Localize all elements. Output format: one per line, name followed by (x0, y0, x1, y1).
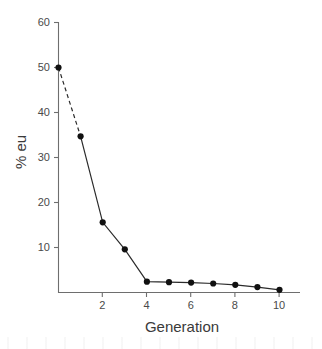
chart-canvas: 60 50 40 30 20 10 2 4 6 8 10 Generation … (0, 0, 322, 349)
x-tick-label-4: 4 (143, 299, 149, 311)
data-point-gen-3 (122, 246, 128, 252)
x-tick-label-10: 10 (273, 299, 285, 311)
y-tick-label-30: 30 (38, 151, 50, 163)
y-tick-label-60: 60 (38, 16, 50, 28)
x-axis-title: Generation (145, 318, 219, 335)
x-tick-label-6: 6 (188, 299, 194, 311)
y-tick-label-20: 20 (38, 196, 50, 208)
data-point-gen-0 (55, 64, 61, 70)
data-point-gen-1 (78, 133, 84, 139)
x-tick-label-8: 8 (232, 299, 238, 311)
data-point-gen-7 (210, 280, 216, 286)
chart-background (0, 0, 322, 349)
y-tick-label-40: 40 (38, 106, 50, 118)
y-tick-label-50: 50 (38, 61, 50, 73)
data-point-gen-10 (276, 287, 282, 293)
scan-artifact-strip (0, 337, 322, 349)
line-chart-figure: 60 50 40 30 20 10 2 4 6 8 10 Generation … (0, 0, 322, 349)
data-point-gen-5 (166, 279, 172, 285)
x-tick-label-2: 2 (99, 299, 105, 311)
y-axis-title: % eu (12, 135, 29, 169)
data-point-gen-4 (144, 279, 150, 285)
data-point-gen-2 (100, 219, 106, 225)
y-tick-label-10: 10 (38, 241, 50, 253)
data-point-gen-9 (254, 284, 260, 290)
data-point-gen-8 (232, 282, 238, 288)
data-point-gen-6 (188, 280, 194, 286)
